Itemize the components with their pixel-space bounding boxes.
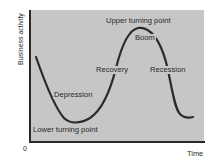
- boom-label: Boom: [134, 34, 156, 42]
- recovery-label: Recovery: [95, 66, 129, 74]
- x-axis-label: Time: [187, 150, 203, 157]
- recession-label: Recession: [149, 66, 186, 74]
- y-axis-label: Business activity: [16, 13, 23, 65]
- y-axis-line: [29, 10, 31, 143]
- business-cycle-chart: Business activity Upper turning point Bo…: [0, 0, 217, 162]
- x-axis-line: [29, 141, 205, 143]
- upper-turning-point-label: Upper turning point: [106, 17, 171, 25]
- origin-label: 0: [23, 145, 27, 152]
- lower-turning-point-label: Lower turning point: [33, 126, 98, 134]
- depression-label: Depression: [53, 91, 93, 99]
